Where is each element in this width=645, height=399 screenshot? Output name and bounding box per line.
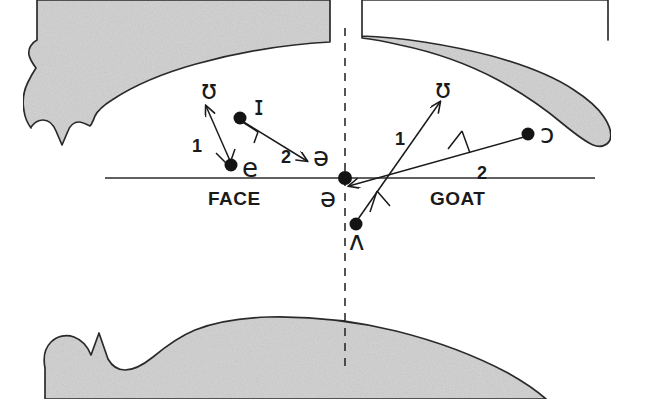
vowel-dots [225,112,535,231]
label-target-face-upsilon: ʊ [201,75,217,105]
lower-jaw-tongue [44,317,546,399]
label-word-goat: GOAT [430,188,485,209]
label-number-goat-2: 2 [477,163,487,183]
arrow-goat-2-midmark [448,131,470,153]
dot-o-open [522,128,535,141]
label-vowel-wedge: ʌ [349,226,364,256]
label-vowel-schwa-center: ə [320,183,336,213]
label-number-face-2: 2 [281,147,291,167]
arrow-goat-1-midmark [370,191,390,212]
dot-schwa-center [338,171,352,185]
label-target-goat-upsilon: ʊ [435,74,451,104]
label-number-face-1: 1 [192,136,202,156]
dot-i-small [234,112,247,125]
upper-jaw-palate-left [23,0,330,145]
label-target-face-schwa: ə [313,142,329,172]
arrow-goat-1 [356,102,440,222]
vowel-diagram-svg: e ɪ ə ʌ ɔ ʊ ə ʊ 1 2 1 2 FACE GOAT [0,0,645,399]
label-number-goat-1: 1 [395,129,405,149]
label-vowel-e: e [242,153,258,183]
organ-shapes [23,0,611,399]
arrow-face-2-tailmark [241,121,258,143]
upper-jaw-palate-right [362,0,611,146]
label-word-face: FACE [208,188,261,209]
label-vowel-i-small: ɪ [254,91,264,121]
dot-e [225,159,238,172]
figure-canvas: e ɪ ə ʌ ɔ ʊ ə ʊ 1 2 1 2 FACE GOAT [0,0,645,399]
label-vowel-o-open: ɔ [540,119,554,149]
